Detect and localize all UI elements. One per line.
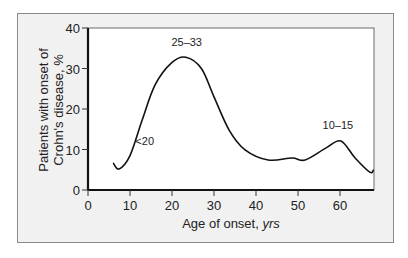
x-tick-label: 10 bbox=[123, 198, 137, 213]
y-tick-label: 0 bbox=[73, 183, 80, 198]
annotation-label: 25–33 bbox=[171, 36, 202, 48]
annotation-label: 10–15 bbox=[323, 119, 354, 131]
x-ticks: 0102030405060 bbox=[84, 190, 347, 213]
x-axis-title: Age of onset, yrs bbox=[182, 216, 280, 231]
y-tick-label: 40 bbox=[66, 21, 80, 36]
y-tick-label: 30 bbox=[66, 62, 80, 77]
y-ticks: 010203040 bbox=[66, 21, 88, 198]
plot-area bbox=[88, 28, 374, 190]
x-tick-label: 40 bbox=[249, 198, 263, 213]
y-tick-label: 10 bbox=[66, 143, 80, 158]
x-tick-label: 50 bbox=[291, 198, 305, 213]
annotation-label: <20 bbox=[135, 135, 154, 147]
y-axis-title: Patients with onset of Crohn's disease, … bbox=[36, 48, 66, 172]
svg-text:Crohn's disease, %: Crohn's disease, % bbox=[51, 54, 66, 166]
x-tick-label: 0 bbox=[84, 198, 91, 213]
x-tick-label: 20 bbox=[165, 198, 179, 213]
x-tick-label: 60 bbox=[333, 198, 347, 213]
y-tick-label: 20 bbox=[66, 102, 80, 117]
x-tick-label: 30 bbox=[207, 198, 221, 213]
svg-text:Patients with onset of: Patients with onset of bbox=[36, 48, 51, 172]
line-chart: 010203040 0102030405060 25–33<2010–15 Ag… bbox=[0, 0, 408, 258]
